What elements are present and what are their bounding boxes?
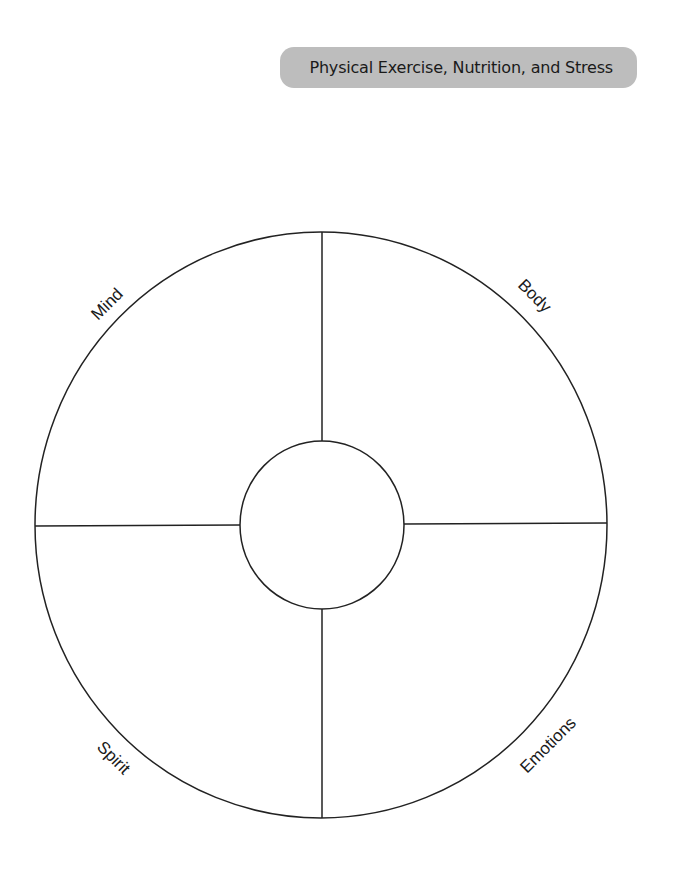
inner-circle (240, 441, 404, 609)
wellness-wheel: Mind Body Spirit Emotions (0, 0, 686, 877)
quadrant-label-body: Body (514, 275, 555, 316)
quadrant-label-spirit: Spirit (93, 737, 134, 778)
divider-left (35, 525, 240, 526)
quadrant-label-mind: Mind (87, 284, 126, 323)
quadrant-label-emotions: Emotions (516, 713, 580, 777)
divider-right (404, 523, 607, 524)
